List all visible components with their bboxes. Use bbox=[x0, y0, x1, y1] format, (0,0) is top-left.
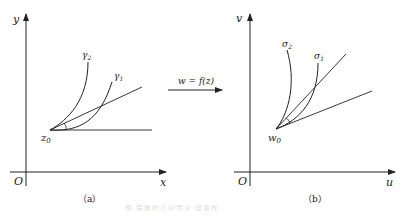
tangent-line bbox=[50, 87, 142, 130]
sigma2-label: σ2 bbox=[282, 39, 292, 50]
origin-label-b: O bbox=[238, 175, 247, 188]
curve-gamma1 bbox=[50, 82, 112, 130]
y-axis-label: y bbox=[12, 13, 20, 26]
panel-b: v u O w0 σ2 σ1 （b） bbox=[234, 12, 395, 204]
mapping-label: w = f(z) bbox=[178, 76, 215, 86]
x-axis-label: x bbox=[160, 176, 167, 189]
line-lower bbox=[276, 91, 372, 129]
figure-caption: 图 导数的几何意义 保角性 bbox=[125, 203, 275, 211]
angle-arc bbox=[64, 123, 66, 130]
panel-a: y x O z0 γ2 γ1 （a） bbox=[10, 13, 167, 204]
gamma2-label: γ2 bbox=[82, 50, 91, 61]
conformal-mapping-diagram: y x O z0 γ2 γ1 （a） w = f(z) v u O bbox=[0, 0, 405, 216]
z0-label: z0 bbox=[40, 132, 51, 145]
gamma1-label: γ1 bbox=[114, 71, 123, 82]
caption-a: （a） bbox=[78, 194, 101, 204]
v-axis-label: v bbox=[236, 12, 243, 25]
caption-b: （b） bbox=[303, 194, 327, 204]
sigma1-label: σ1 bbox=[314, 51, 324, 62]
origin-label: O bbox=[14, 175, 23, 188]
curve-gamma2 bbox=[50, 62, 88, 130]
curve-sigma2 bbox=[276, 50, 291, 129]
line-upper bbox=[276, 54, 346, 129]
mapping-arrow: w = f(z) bbox=[168, 76, 222, 90]
w0-label: w0 bbox=[268, 132, 282, 145]
u-axis-label: u bbox=[386, 176, 393, 189]
